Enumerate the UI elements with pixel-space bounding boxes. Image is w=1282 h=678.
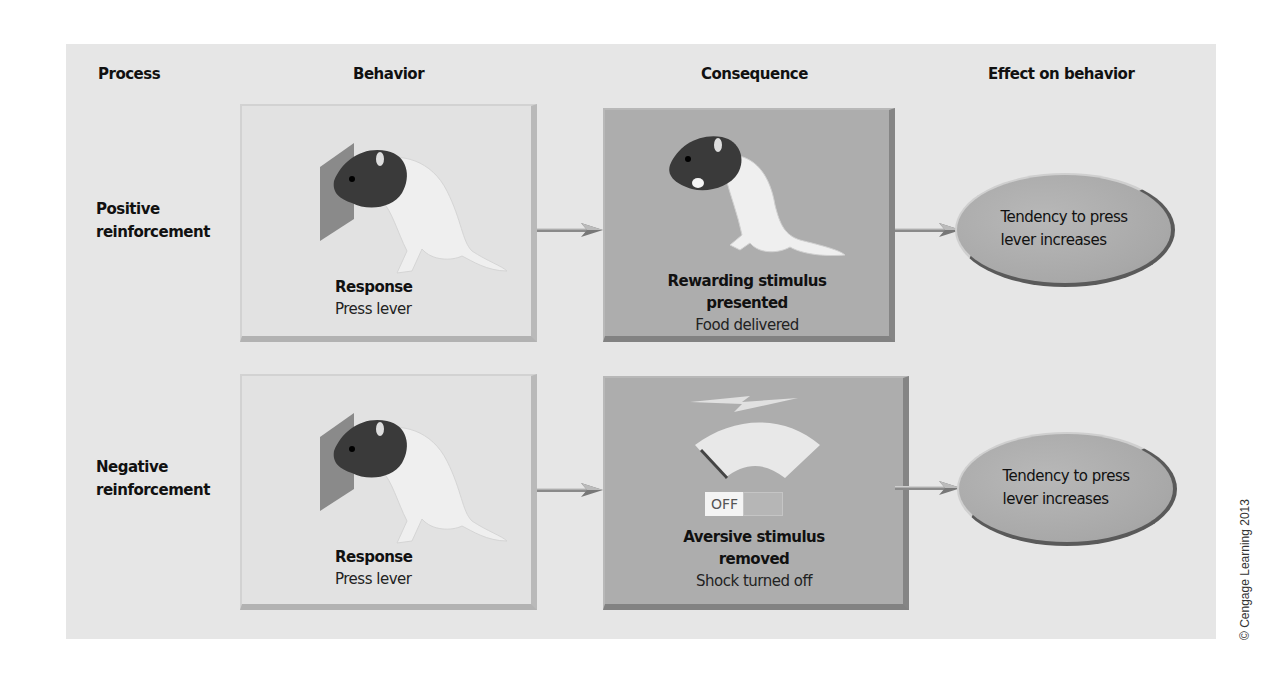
arrow-right-icon	[537, 222, 603, 238]
effect-text: Tendency to press lever increases	[1000, 206, 1127, 252]
consequence-box-positive: Rewarding stimulus presented Food delive…	[603, 108, 895, 342]
consequence-title-line1: Rewarding stimulus	[605, 270, 889, 292]
consequence-subtitle: Food delivered	[605, 314, 889, 336]
effect-text: Tendency to press lever increases	[1002, 465, 1129, 511]
row-label-line1: Negative	[96, 456, 210, 479]
header-consequence: Consequence	[701, 65, 808, 83]
effect-ellipse-positive: Tendency to press lever increases	[955, 173, 1175, 287]
row-label-line2: reinforcement	[96, 479, 210, 502]
effect-line2: lever increases	[1000, 229, 1127, 252]
effect-line2: lever increases	[1002, 488, 1129, 511]
arrow-right-icon	[895, 480, 961, 496]
rat-pressing-lever-icon	[312, 391, 512, 551]
row-label-line1: Positive	[96, 198, 210, 221]
behavior-subtitle: Press lever	[335, 568, 531, 590]
consequence-box-negative: OFF Aversive stimulus removed Shock turn…	[603, 376, 909, 610]
behavior-text: Response Press lever	[335, 546, 531, 590]
shock-meter-icon	[695, 420, 825, 480]
behavior-box-negative: Response Press lever	[240, 374, 537, 610]
consequence-title-line2: removed	[605, 548, 903, 570]
effect-line1: Tendency to press	[1000, 206, 1127, 229]
row-label-line2: reinforcement	[96, 221, 210, 244]
behavior-subtitle: Press lever	[335, 298, 531, 320]
header-process: Process	[98, 65, 160, 83]
rat-eating-icon	[660, 115, 860, 265]
consequence-text: Aversive stimulus removed Shock turned o…	[605, 526, 903, 592]
behavior-box-positive: Response Press lever	[240, 104, 537, 342]
consequence-title-line2: presented	[605, 292, 889, 314]
consequence-text: Rewarding stimulus presented Food delive…	[605, 270, 889, 336]
row-label-negative: Negative reinforcement	[96, 456, 210, 502]
effect-line1: Tendency to press	[1002, 465, 1129, 488]
header-behavior: Behavior	[353, 65, 424, 83]
rat-pressing-lever-icon	[312, 121, 512, 281]
consequence-title-line1: Aversive stimulus	[605, 526, 903, 548]
header-effect: Effect on behavior	[988, 65, 1134, 83]
consequence-subtitle: Shock turned off	[605, 570, 903, 592]
lightning-bolt-icon	[690, 392, 800, 414]
off-switch-label: OFF	[705, 492, 744, 516]
behavior-title: Response	[335, 546, 531, 568]
behavior-text: Response Press lever	[335, 276, 531, 320]
effect-ellipse-negative: Tendency to press lever increases	[957, 432, 1177, 546]
behavior-title: Response	[335, 276, 531, 298]
copyright-notice: © Cengage Learning 2013	[1238, 499, 1252, 640]
row-label-positive: Positive reinforcement	[96, 198, 210, 244]
arrow-right-icon	[537, 482, 603, 498]
off-switch-track	[743, 492, 783, 516]
arrow-right-icon	[895, 222, 961, 238]
